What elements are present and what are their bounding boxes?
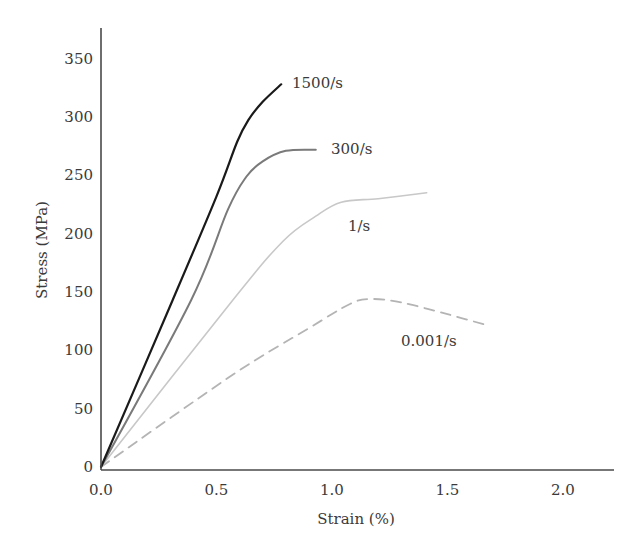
x-tick-labels: 0.00.51.01.52.0 (89, 481, 575, 499)
x-tick-label: 0.5 (205, 481, 229, 499)
series-labels: 1500/s300/s1/s0.001/s (292, 74, 457, 350)
series-line-0-001-s (101, 299, 489, 467)
y-tick-labels: 050100150200250300350 (64, 50, 93, 476)
series-label: 300/s (331, 140, 372, 158)
series-line-1-s (101, 193, 427, 467)
stress-strain-chart: 0.00.51.01.52.0 050100150200250300350 St… (0, 0, 639, 554)
x-tick-label: 1.5 (436, 481, 460, 499)
series-label: 0.001/s (401, 332, 457, 350)
x-tick-label: 0.0 (89, 481, 113, 499)
y-axis-title: Stress (MPa) (33, 201, 51, 299)
x-tick-label: 2.0 (551, 481, 575, 499)
y-tick-label: 100 (64, 341, 93, 359)
series-label: 1500/s (292, 74, 343, 92)
series-line-1500-s (101, 84, 281, 467)
y-tick-label: 250 (64, 166, 93, 184)
y-tick-label: 300 (64, 108, 93, 126)
x-axis-title: Strain (%) (317, 510, 395, 528)
y-tick-label: 350 (64, 50, 93, 68)
y-tick-label: 50 (74, 400, 93, 418)
x-tick-label: 1.0 (320, 481, 344, 499)
y-tick-label: 150 (64, 283, 93, 301)
series-label: 1/s (348, 217, 370, 235)
plot-area (101, 84, 489, 467)
series-line-300-s (101, 150, 316, 467)
y-tick-label: 200 (64, 225, 93, 243)
y-tick-label: 0 (83, 458, 93, 476)
